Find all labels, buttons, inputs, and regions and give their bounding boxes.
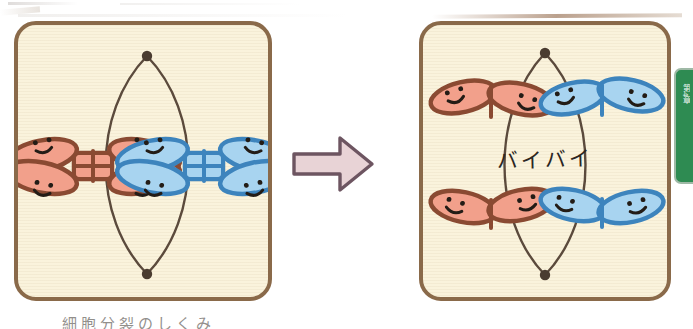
spindle-poles [540,48,550,280]
metaphase-panel [14,21,272,301]
scan-artifact [432,13,682,19]
anaphase-illustration [423,25,667,297]
metaphase-illustration [18,25,268,297]
transition-arrow-icon [291,133,375,195]
right-red-chromosome-bottom [428,183,557,228]
right-blue-chromosome-top [537,73,666,120]
scan-artifact [18,14,348,17]
figure-bottom-caption: 細胞分裂のしくみ [62,317,312,329]
anaphase-panel: バイバイ [419,21,671,301]
scan-artifact [0,6,40,15]
left-blue-chromosome [114,133,268,199]
page-tab-label: 第4章 [680,84,691,104]
right-blue-chromosome-bottom [538,183,667,228]
figure-canvas: バイバイ 細胞分裂のしくみ 第4章 [0,0,693,329]
right-red-chromosome-top [427,75,556,121]
scan-artifact [120,3,300,5]
scan-artifact [8,2,78,5]
page-tab[interactable]: 第4章 [674,68,693,184]
